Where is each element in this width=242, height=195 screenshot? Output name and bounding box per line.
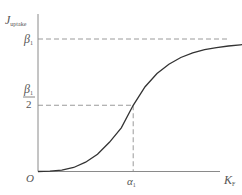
half-beta1-numerator: β1 xyxy=(23,82,33,96)
half-beta1-denominator: 2 xyxy=(26,98,32,110)
alpha1-tick-label: α1 xyxy=(127,175,136,188)
sigmoid-curve xyxy=(38,44,242,172)
y-axis-label: Juptake xyxy=(5,13,27,27)
chart-svg: Juptake β1 β1 2 O α1 KF xyxy=(0,0,242,195)
beta1-tick-label: β1 xyxy=(23,32,33,46)
x-axis-label: KF xyxy=(223,173,236,187)
origin-label: O xyxy=(26,172,34,184)
